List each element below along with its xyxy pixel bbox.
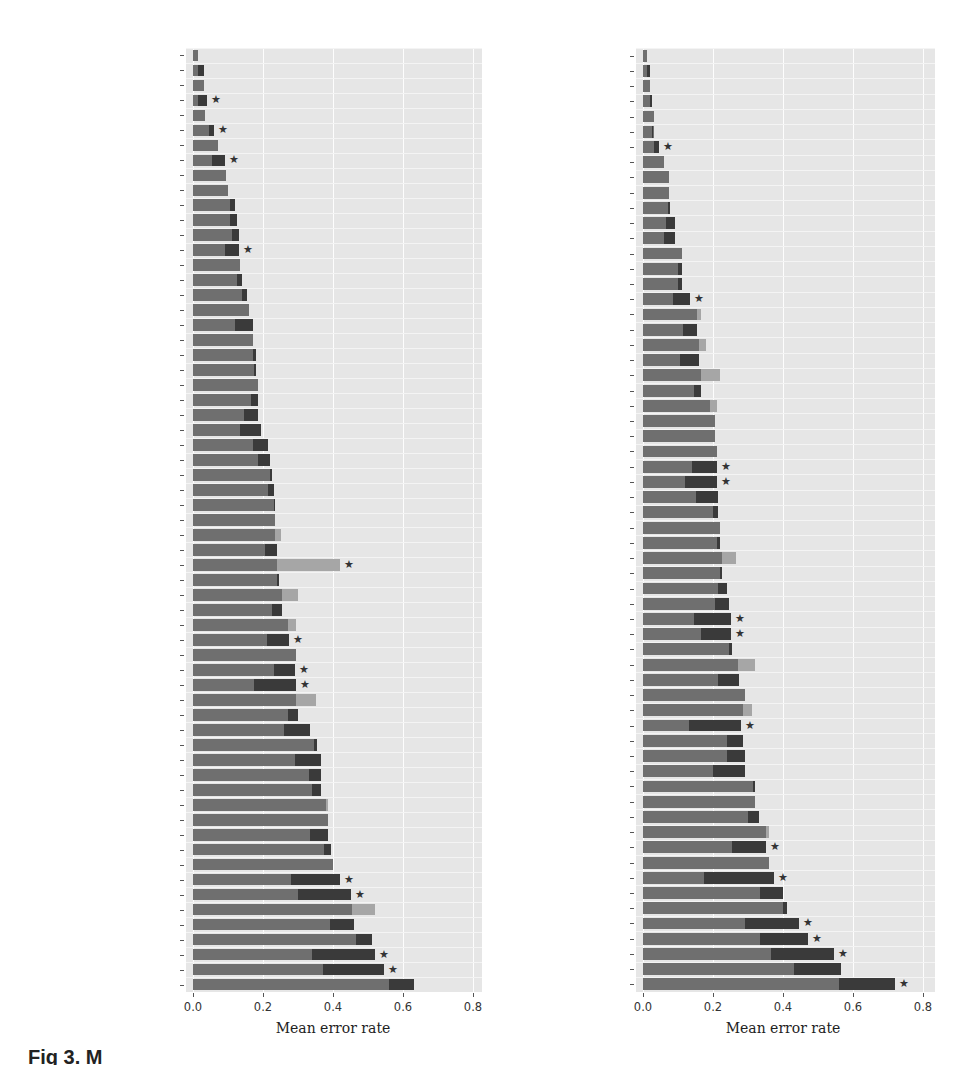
y-tick bbox=[180, 835, 184, 836]
significance-star-icon: ★ bbox=[735, 613, 745, 624]
bar-dark-segment bbox=[760, 933, 807, 945]
x-tick bbox=[853, 993, 854, 997]
row-separator bbox=[636, 200, 935, 201]
bar-dark-segment bbox=[715, 598, 729, 610]
y-tick bbox=[630, 589, 634, 590]
y-tick bbox=[630, 482, 634, 483]
y-tick bbox=[630, 360, 634, 361]
y-tick bbox=[630, 421, 634, 422]
y-tick bbox=[630, 299, 634, 300]
row-separator bbox=[186, 168, 482, 169]
bar-dark-segment bbox=[277, 574, 279, 586]
row-separator bbox=[186, 108, 482, 109]
bar-dark-segment bbox=[268, 484, 273, 496]
y-tick bbox=[180, 850, 184, 851]
bar-dark-segment bbox=[298, 889, 351, 901]
bar bbox=[643, 80, 650, 92]
y-tick bbox=[180, 370, 184, 371]
y-tick bbox=[630, 863, 634, 864]
bar-dark-segment bbox=[389, 979, 414, 991]
bar bbox=[193, 649, 296, 661]
y-tick bbox=[180, 670, 184, 671]
y-tick bbox=[630, 467, 634, 468]
y-tick bbox=[630, 695, 634, 696]
bar-dark-segment bbox=[253, 439, 269, 451]
bar bbox=[193, 559, 277, 571]
significance-star-icon: ★ bbox=[694, 293, 704, 304]
y-tick bbox=[630, 665, 634, 666]
y-tick bbox=[180, 625, 184, 626]
bar-dark-segment bbox=[314, 739, 318, 751]
bar-light-segment bbox=[743, 704, 752, 716]
y-tick bbox=[180, 580, 184, 581]
bar bbox=[193, 799, 326, 811]
y-tick bbox=[630, 710, 634, 711]
y-tick bbox=[180, 565, 184, 566]
bar-dark-segment bbox=[212, 155, 224, 167]
x-tick bbox=[783, 993, 784, 997]
y-tick bbox=[180, 595, 184, 596]
y-tick bbox=[630, 923, 634, 924]
significance-star-icon: ★ bbox=[745, 720, 755, 731]
y-tick bbox=[630, 832, 634, 833]
y-tick bbox=[180, 265, 184, 266]
significance-star-icon: ★ bbox=[838, 948, 848, 959]
y-tick bbox=[180, 910, 184, 911]
row-separator bbox=[636, 124, 935, 125]
y-tick bbox=[180, 925, 184, 926]
bar-dark-segment bbox=[718, 674, 739, 686]
y-tick bbox=[630, 132, 634, 133]
y-tick bbox=[630, 908, 634, 909]
row-separator bbox=[186, 138, 482, 139]
gridline bbox=[473, 48, 474, 992]
bar bbox=[643, 156, 664, 168]
bar bbox=[193, 829, 328, 841]
bar bbox=[193, 694, 296, 706]
bar bbox=[643, 552, 722, 564]
significance-star-icon: ★ bbox=[229, 154, 239, 165]
bar-dark-segment bbox=[324, 844, 331, 856]
bar bbox=[193, 349, 256, 361]
y-tick bbox=[180, 115, 184, 116]
bar-dark-segment bbox=[270, 469, 272, 481]
bar-dark-segment bbox=[727, 750, 745, 762]
bar bbox=[643, 385, 701, 397]
bar-light-segment bbox=[699, 339, 706, 351]
bar-dark-segment bbox=[312, 949, 375, 961]
row-separator bbox=[186, 48, 482, 49]
y-tick bbox=[180, 340, 184, 341]
bar-dark-segment bbox=[696, 491, 719, 503]
bar bbox=[193, 140, 218, 152]
y-tick bbox=[180, 940, 184, 941]
bar bbox=[193, 514, 275, 526]
bar bbox=[643, 567, 722, 579]
bar-dark-segment bbox=[654, 141, 659, 153]
bar bbox=[193, 769, 321, 781]
bar bbox=[643, 400, 710, 412]
y-tick bbox=[180, 175, 184, 176]
y-tick bbox=[180, 460, 184, 461]
y-tick bbox=[180, 130, 184, 131]
significance-star-icon: ★ bbox=[770, 841, 780, 852]
bar-dark-segment bbox=[713, 506, 718, 518]
y-tick bbox=[180, 520, 184, 521]
bar bbox=[643, 309, 697, 321]
bar bbox=[193, 334, 253, 346]
bar-dark-segment bbox=[209, 125, 214, 137]
bar-dark-segment bbox=[254, 364, 256, 376]
bar bbox=[643, 446, 717, 458]
figure-caption: Fig 3. M bbox=[28, 1046, 102, 1065]
x-tick-label: 0.2 bbox=[254, 1000, 272, 1014]
row-separator bbox=[636, 78, 935, 79]
y-tick bbox=[180, 400, 184, 401]
row-separator bbox=[186, 183, 482, 184]
bar-dark-segment bbox=[356, 934, 372, 946]
y-tick bbox=[630, 451, 634, 452]
y-tick bbox=[180, 490, 184, 491]
y-tick bbox=[630, 391, 634, 392]
x-tick-label: 0.0 bbox=[634, 1000, 652, 1014]
bar-dark-segment bbox=[652, 126, 654, 138]
bar-dark-segment bbox=[664, 232, 675, 244]
bar-dark-segment bbox=[254, 679, 296, 691]
bar bbox=[193, 110, 205, 122]
